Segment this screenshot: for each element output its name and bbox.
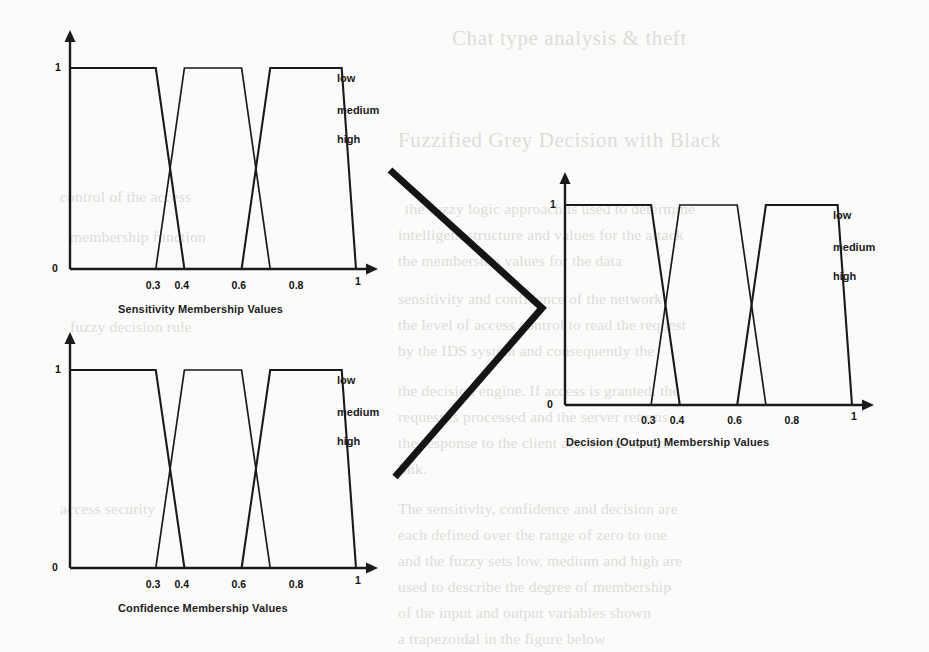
decision-membership-curve-low (565, 205, 680, 405)
scanned-figure-page: Chat type analysis & theftFuzzified Grey… (0, 0, 929, 652)
decision-xtick-0.8: 0.8 (785, 414, 800, 426)
decision-legend-high: high (833, 270, 856, 282)
decision-y-axis-arrowhead (560, 172, 571, 184)
decision-xtick-1: 1 (851, 410, 857, 422)
decision-x-axis-arrowhead (862, 400, 874, 411)
decision-ytick-0: 0 (547, 398, 553, 410)
decision-legend-medium: medium (833, 241, 875, 253)
decision-xtick-0.4: 0.4 (670, 414, 685, 426)
decision-plot-svg (0, 0, 929, 652)
decision-xtick-0.6: 0.6 (727, 414, 742, 426)
decision-caption: Decision (Output) Membership Values (566, 436, 769, 448)
decision-legend-low: low (833, 209, 851, 221)
decision-membership-curve-medium (651, 205, 766, 405)
decision-ytick-1: 1 (550, 198, 556, 210)
decision-xtick-0.3: 0.3 (641, 414, 656, 426)
decision-membership-curve-high (737, 205, 852, 405)
